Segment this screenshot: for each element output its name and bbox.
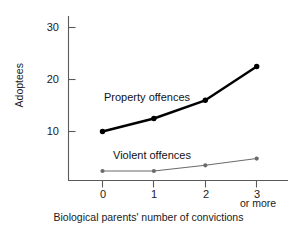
data-point [152, 169, 156, 173]
data-point [100, 169, 104, 173]
y-tick-label-10: 10 [33, 126, 59, 137]
data-point [151, 116, 156, 121]
data-point [203, 163, 207, 167]
data-point [254, 64, 259, 69]
x-tick-sublabel-or-more: or more [228, 198, 288, 209]
chart-figure: 30 20 10 0 1 2 3 or more Adoptees Biolog… [0, 0, 297, 228]
series-label-violent-offences: Violent offences [113, 150, 191, 161]
y-tick-label-20: 20 [33, 74, 59, 85]
data-point [100, 129, 105, 134]
x-tick-label-1: 1 [142, 189, 166, 200]
x-tick-label-0: 0 [91, 189, 115, 200]
y-tick-label-30: 30 [33, 22, 59, 33]
y-axis-ticks [69, 28, 76, 132]
y-axis-title: Adoptees [14, 45, 25, 125]
data-point [255, 156, 259, 160]
series-label-property-offences: Property offences [104, 92, 190, 103]
x-axis-title: Biological parents' number of conviction… [0, 212, 297, 223]
data-point [203, 98, 208, 103]
x-tick-label-2: 2 [194, 189, 218, 200]
x-axis-ticks [103, 181, 257, 188]
